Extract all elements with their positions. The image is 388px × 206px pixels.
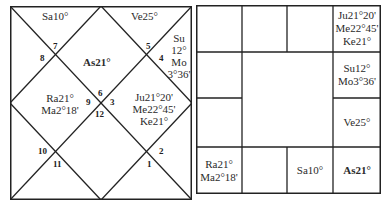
house-2-planets: Ve25° xyxy=(131,10,158,22)
sign-number-3: 3 xyxy=(110,98,115,107)
cell-capricorn: Ve25° xyxy=(333,98,381,147)
house-4-planets: Ju21°20' Me22°45' Ke21° xyxy=(126,91,182,127)
cell-aquarius: Su12° Mo3°36' xyxy=(333,52,381,98)
cell-pisces: Ju21°20' Me22°45' Ke21° xyxy=(333,5,381,52)
house-10-planets: Ra21° Ma2°18' xyxy=(38,92,82,116)
ascendant-label: As21° xyxy=(83,56,111,68)
sign-number-7: 7 xyxy=(53,42,58,51)
south-indian-chart: Ju21°20' Me22°45' Ke21° Su12° Mo3°36' Ve… xyxy=(196,5,381,194)
sign-number-8: 8 xyxy=(40,54,45,63)
sign-number-6: 6 xyxy=(98,89,103,98)
house-3-planets: Su 12° Mo 3°36' xyxy=(165,32,193,80)
sign-number-11: 11 xyxy=(53,160,62,169)
sign-number-10: 10 xyxy=(38,147,47,156)
sign-number-5: 5 xyxy=(146,42,151,51)
house-12-planets: Sa10° xyxy=(42,10,68,22)
north-indian-chart: Sa10° Ve25° As21° Su 12° Mo 3°36' Ju21°2… xyxy=(10,6,192,200)
cell-sagittarius-ascendant: As21° xyxy=(333,147,381,194)
sign-number-4: 4 xyxy=(159,54,164,63)
sign-number-2: 2 xyxy=(159,147,164,156)
cell-leo: Ra21° Ma2°18' xyxy=(196,147,242,194)
cell-scorpio: Sa10° xyxy=(287,147,333,194)
sign-number-12: 12 xyxy=(95,110,104,119)
sign-number-9: 9 xyxy=(86,98,91,107)
sign-number-1: 1 xyxy=(147,160,152,169)
